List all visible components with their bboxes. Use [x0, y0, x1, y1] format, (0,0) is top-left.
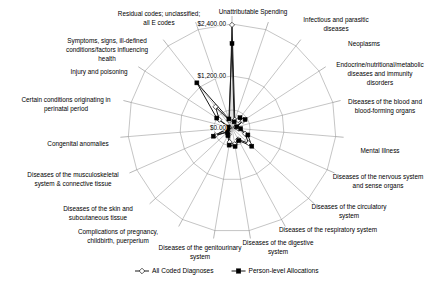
axis-spoke-12: [155, 128, 232, 198]
category-axis-label: Diseases of the digestive: [242, 239, 313, 247]
category-axis-label: system: [190, 253, 210, 261]
category-axis-label: Symptoms, signs, ill-defined: [67, 37, 147, 45]
data-point-marker: [227, 117, 231, 121]
category-axis-label: Diseases of the musculoskeletal: [27, 171, 118, 178]
category-axis-label: Diseases of the circulatory: [312, 203, 388, 211]
radial-tick-label: $2,400.00: [198, 20, 227, 27]
category-axis-label: diseases: [323, 25, 348, 32]
category-axis-label: Endocrine/nutritional/metabolic: [336, 61, 424, 68]
radial-tick-label-layer: $0.00$1,200.00$2,400.00: [198, 20, 227, 131]
category-axis-label: Diseases of the blood and: [348, 98, 422, 105]
category-axis-label: Diseases of the nervous system: [333, 173, 424, 181]
leader-line-4: [333, 101, 341, 103]
category-axis-label: Neoplasms: [348, 40, 380, 48]
legend-item[interactable]: All Coded Diagnoses: [135, 267, 214, 275]
data-point-marker: [226, 130, 230, 134]
leader-line-11: [179, 219, 183, 226]
axis-spoke-4: [232, 102, 333, 128]
data-point-marker: [227, 143, 231, 147]
data-point-marker: [195, 81, 199, 85]
category-axis-label: disorders: [367, 79, 393, 86]
data-point-marker: [229, 22, 234, 27]
leader-line-13: [129, 170, 136, 173]
category-axis-label: Diseases of the genitourinary: [159, 244, 243, 252]
radar-chart-svg: $0.00$1,200.00$2,400.00 Unattributable S…: [0, 0, 448, 287]
data-point-marker: [246, 133, 250, 137]
leader-line-16: [138, 67, 145, 71]
category-axis-label: system: [268, 248, 288, 256]
leader-line-2: [296, 40, 301, 46]
category-axis-label: Injury and poisoning: [70, 68, 128, 76]
category-axis-label: health: [98, 55, 116, 62]
data-point-marker: [235, 125, 239, 129]
category-axis-label: Unattributable Spending: [219, 8, 288, 16]
radial-tick-label: $0.00: [210, 124, 226, 131]
radar-chart: $0.00$1,200.00$2,400.00 Unattributable S…: [0, 0, 448, 287]
leader-line-9: [249, 231, 250, 239]
category-axis-label: diseases and immunity: [347, 70, 413, 78]
legend-item[interactable]: Person-level Allocations: [232, 267, 320, 274]
category-label-layer: Unattributable SpendingInfectious and pa…: [21, 8, 424, 261]
legend-marker-open-diamond: [139, 268, 145, 274]
leader-line-15: [123, 101, 131, 103]
axis-spoke-7: [232, 128, 309, 198]
leader-line-17: [163, 40, 168, 46]
leader-line-14: [120, 137, 128, 138]
category-axis-label: Certain conditions originating in: [21, 96, 111, 104]
category-axis-label: all E codes: [143, 19, 174, 26]
category-axis-label: system & connective tissue: [34, 180, 112, 188]
category-axis-label: Residual codes; unclassified;: [118, 10, 201, 17]
data-point-marker: [243, 117, 247, 121]
data-point-marker: [215, 116, 219, 120]
data-point-marker: [233, 144, 237, 148]
axis-spoke-1: [232, 30, 266, 128]
data-point-marker: [232, 120, 236, 124]
radial-tick-label: $1,200.00: [198, 72, 227, 79]
data-point-marker: [230, 42, 234, 46]
category-axis-label: subcutaneous tissue: [69, 214, 128, 221]
legend-label: All Coded Diagnoses: [152, 267, 214, 275]
data-point-marker: [237, 139, 241, 143]
chart-legend: All Coded DiagnosesPerson-level Allocati…: [135, 267, 319, 275]
category-axis-label: system: [339, 212, 359, 220]
category-axis-label: Diseases of the skin and: [63, 205, 133, 212]
category-axis-label: Mental Illness: [360, 147, 399, 154]
data-point-marker: [211, 134, 215, 138]
category-axis-label: blood-forming organs: [355, 107, 415, 115]
category-axis-label: Complications of pregnancy,: [78, 228, 158, 236]
legend-label: Person-level Allocations: [249, 267, 320, 274]
data-point-marker: [226, 125, 230, 129]
data-point-marker: [250, 144, 254, 148]
leader-line-5: [336, 137, 344, 138]
category-axis-label: Diseases of the respiratory system: [279, 226, 377, 234]
leader-line-1: [266, 22, 269, 30]
category-axis-label: childbirth, puerperium: [87, 237, 148, 245]
category-axis-label: perinatal period: [44, 105, 89, 113]
leader-line-3: [319, 67, 326, 71]
data-point-marker: [239, 127, 243, 131]
data-point-marker: [238, 116, 242, 120]
leader-line-10: [214, 231, 215, 239]
category-axis-label: conditions/factors influencing: [66, 46, 149, 54]
category-axis-label: Congenital anomalies: [47, 140, 108, 148]
category-axis-label: and sense organs: [353, 182, 404, 190]
leader-line-12: [150, 198, 156, 203]
legend-marker-filled-square: [236, 269, 240, 273]
category-axis-label: Infectious and parasitic: [303, 16, 369, 24]
